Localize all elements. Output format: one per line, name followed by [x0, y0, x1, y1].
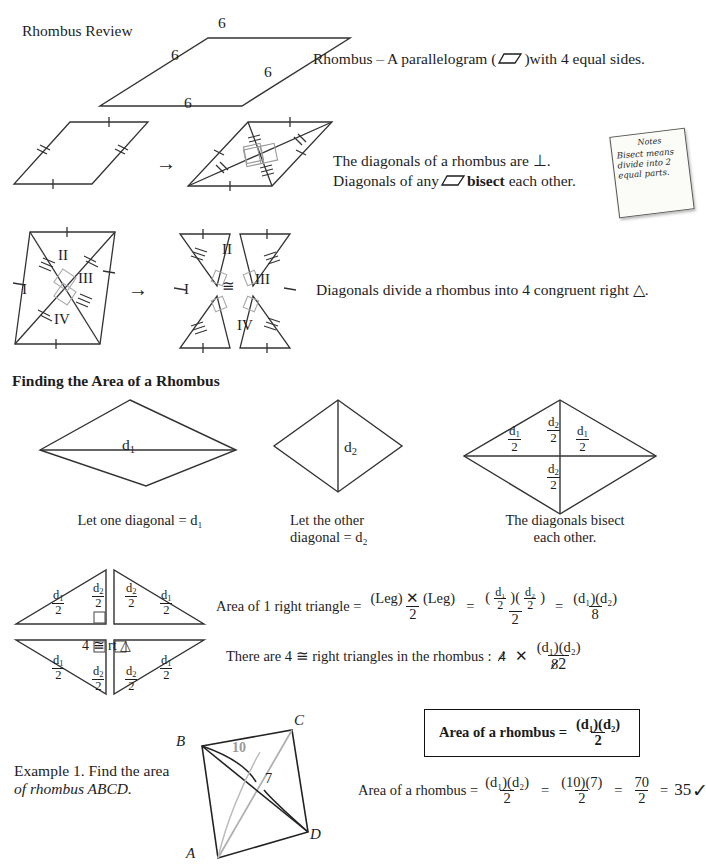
triangle-label-III-exploded: III	[255, 271, 270, 288]
sol-f2-num: (10)(7)	[558, 775, 605, 790]
label-d2-over-2-top: d22	[543, 415, 564, 445]
figure-four-right-triangles	[6, 562, 211, 702]
triangle-label-III: III	[78, 270, 93, 287]
congruent-triangles-text: Diagonals divide a rhombus into 4 congru…	[316, 281, 649, 299]
example-prompt-line2: of rhombus ABCD.	[14, 780, 132, 797]
eq1-f2-num: (d₁2)(d₂2)	[482, 586, 548, 611]
tri-label-d1-1: d12	[48, 589, 69, 617]
equation-area-one-right-triangle: Area of 1 right triangle = (Leg) ✕ (Leg)…	[216, 586, 622, 627]
tri-label-d1-2: d12	[156, 589, 177, 617]
vertex-label-B: B	[176, 733, 185, 750]
caption-halves-line2: each other.	[534, 529, 597, 545]
eq2-den-group: 82	[548, 655, 569, 672]
sol-equals-3: =	[660, 782, 668, 799]
eq1-f3-num: (d₁)(d₂)	[570, 591, 620, 606]
eq1-f2b-num: d₂	[522, 586, 538, 598]
caption-d2-line2: diagonal = d₂	[290, 529, 368, 545]
sol-f1-num: (d₁)(d₂)	[482, 775, 532, 790]
eq1-f2a-den: 2	[494, 598, 506, 611]
boxed-area-formula: Area of a rhombus = (d₁)(d₂) 2	[424, 709, 640, 757]
eq1-lead: Area of 1 right triangle =	[216, 598, 361, 615]
definition-tail: )with 4 equal sides.	[524, 50, 645, 67]
triangle-label-I-exploded: I	[184, 281, 189, 298]
parallelogram-icon	[441, 175, 465, 186]
bisect-lead: Diagonals of any	[333, 172, 439, 189]
eq2-cancelled-eight: 8	[551, 657, 558, 672]
tri-label-d2-4: d22	[121, 665, 142, 693]
label-d2: d2	[344, 438, 357, 457]
label-d1-over-2-left: d12	[504, 424, 525, 454]
eq1-f1-num: (Leg) ✕ (Leg)	[367, 591, 458, 606]
boxed-label: Area of a rhombus =	[439, 724, 567, 741]
area-section-heading: Finding the Area of a Rhombus	[12, 372, 220, 390]
tri-label-d1-4: d12	[156, 654, 177, 682]
figure-rhombus-d1	[38, 398, 238, 488]
figure-rhombus-d2	[272, 398, 404, 494]
bisect-tail: each other.	[509, 172, 576, 189]
eq1-f1-den: 2	[406, 606, 419, 622]
sticky-note-text: Notes Bisect means divide into 2 equal p…	[611, 131, 688, 182]
figure-rhombus-abcd	[186, 712, 326, 864]
caption-d1: Let one diagonal = d₁	[60, 512, 220, 529]
triangle-label-IV-exploded: IV	[237, 317, 253, 334]
side-label-top: 6	[218, 14, 226, 32]
sticky-note: Notes Bisect means divide into 2 equal p…	[609, 128, 694, 219]
boxed-num: (d₁)(d₂)	[573, 717, 623, 732]
sol-fraction-2: (10)(7) 2	[558, 775, 605, 806]
triangle-label-IV: IV	[54, 311, 70, 328]
label-d1: d1	[122, 436, 135, 455]
four-congruent-rt-triangles-label: 4 ≅ rt △	[82, 637, 131, 654]
definition-lead: Rhombus – A parallelogram (	[313, 50, 496, 67]
diagonals-bisect-text: Diagonals of anybisect each other.	[333, 172, 576, 190]
eq2-cancelled-four: 4	[498, 648, 505, 665]
sol-f1-den: 2	[500, 790, 513, 806]
diagonals-perpendicular-text: The diagonals of a rhombus are ⊥.	[333, 152, 551, 170]
rhombus-definition: Rhombus – A parallelogram ()with 4 equal…	[313, 50, 645, 68]
caption-d2: Let the other diagonal = d₂	[290, 512, 420, 546]
sol-fraction-3: 70 2	[632, 775, 653, 806]
sol-result: 35	[674, 780, 691, 800]
tri-label-d1-3: d12	[48, 654, 69, 682]
arrow-2: →	[128, 278, 148, 301]
figure-parallelogram-diagonals	[186, 118, 336, 193]
caption-d2-line1: Let the other	[290, 512, 364, 528]
label-d2-over-2-bottom: d22	[543, 462, 564, 492]
caption-halves-line1: The diagonals bisect	[505, 512, 624, 528]
eq2-lead: There are 4 ≅ right triangles in the rho…	[226, 648, 491, 665]
triangle-label-II: II	[58, 247, 68, 264]
vertex-label-C: C	[294, 712, 304, 729]
eq2-times: ✕	[515, 648, 528, 665]
example-prompt: Example 1. Find the area of rhombus ABCD…	[14, 762, 184, 798]
sol-equals-1: =	[541, 782, 549, 799]
tri-label-d2-3: d22	[88, 665, 109, 693]
side-label-right: 6	[264, 63, 272, 81]
label-d1-over-2-right: d12	[572, 424, 593, 454]
vertex-label-A: A	[186, 845, 195, 862]
figure-parallelogram-6	[100, 30, 350, 115]
parallelogram-icon	[498, 53, 522, 64]
congruent-symbol: ≅	[222, 277, 235, 295]
example-solution: Area of a rhombus = (d₁)(d₂) 2 = (10)(7)…	[358, 775, 706, 806]
eq2-replacement-den: 2	[558, 656, 566, 672]
tri-label-d2-1: d22	[88, 582, 109, 610]
diagonal-label-10: 10	[232, 740, 246, 756]
diagonal-label-7: 7	[265, 770, 272, 787]
boxed-fraction: (d₁)(d₂) 2	[573, 717, 623, 748]
eq1-f2b-den: 2	[524, 598, 536, 611]
side-label-bottom: 6	[184, 94, 192, 112]
example-prompt-line2-text: of rhombus ABCD.	[14, 780, 132, 797]
sol-fraction-1: (d₁)(d₂) 2	[482, 775, 532, 806]
equation-four-triangles: There are 4 ≅ right triangles in the rho…	[226, 640, 586, 672]
eq1-f3-den: 8	[589, 606, 602, 622]
arrow-1: →	[156, 152, 176, 175]
triangle-label-I: I	[22, 281, 27, 298]
eq1-fraction-halves: (d₁2)(d₂2) 2	[482, 586, 548, 627]
tri-label-d2-2: d22	[121, 582, 142, 610]
eq1-fraction-leg: (Leg) ✕ (Leg) 2	[367, 591, 458, 622]
caption-halves: The diagonals bisect each other.	[480, 512, 650, 546]
sol-lead: Area of a rhombus =	[358, 782, 478, 799]
example-prompt-line1: Example 1. Find the area	[14, 762, 169, 779]
sol-equals-2: =	[614, 782, 622, 799]
eq1-f2-den: 2	[509, 611, 522, 627]
sol-f3-num: 70	[632, 775, 653, 790]
